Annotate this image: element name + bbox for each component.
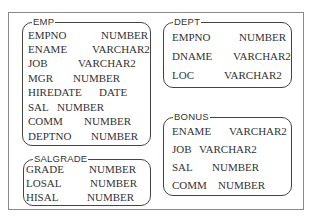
column-name: LOC [172,69,194,82]
column-type: NUMBER [73,72,120,85]
table-emp: EMP EMPNO NUMBER ENAME VARCHAR2 JOB VARC… [22,22,151,146]
column-name: EMPNO [172,31,211,44]
table-bonus: BONUS ENAME VARCHAR2 JOB VARCHAR2 SAL NU… [163,117,292,196]
column-type: VARCHAR2 [224,69,282,82]
column-type: VARCHAR2 [199,143,257,156]
column-type: VARCHAR2 [233,50,291,63]
column-type: NUMBER [91,130,138,143]
column-type: NUMBER [101,29,148,42]
column-type: VARCHAR2 [92,43,150,56]
table-title: DEPT [173,16,201,28]
column-type: NUMBER [90,177,137,190]
column-row: EMPNO [28,29,67,42]
column-type: NUMBER [84,115,131,128]
column-name: SAL [28,101,49,114]
column-type: NUMBER [89,163,136,176]
column-name: HIREDATE [28,86,82,99]
column-name: HISAL [26,191,58,204]
column-name: ENAME [28,43,67,56]
table-title: EMP [32,16,55,28]
table-salgrade: SALGRADE GRADE NUMBER LOSAL NUMBER HISAL… [23,159,151,206]
column-name: DNAME [172,50,212,63]
column-type: NUMBER [218,179,265,192]
column-type: NUMBER [212,161,259,174]
table-dept: DEPT EMPNO NUMBER DNAME VARCHAR2 LOC VAR… [163,22,292,88]
column-name: GRADE [26,163,64,176]
column-type: NUMBER [239,31,286,44]
column-name: COMM [28,115,63,128]
column-name: SAL [172,161,193,174]
column-type: DATE [99,86,127,99]
column-name: DEPTNO [28,130,71,143]
column-name: LOSAL [26,177,61,190]
table-title: BONUS [173,111,210,123]
column-name: JOB [28,57,48,70]
column-type: VARCHAR2 [78,57,136,70]
column-type: NUMBER [87,191,134,204]
column-type: VARCHAR2 [229,125,287,138]
column-name: JOB [172,143,192,156]
column-type: NUMBER [57,101,104,114]
column-name: EMPNO [28,29,67,41]
column-name: MGR [28,72,53,85]
column-name: ENAME [172,125,211,138]
column-name: COMM [172,179,207,192]
